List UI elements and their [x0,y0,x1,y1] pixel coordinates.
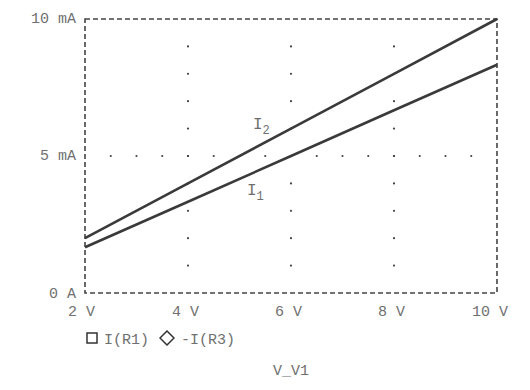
legend-label-i-r1: I(R1) [104,332,149,349]
curve-label-i2: I2 [253,117,270,137]
x-tick-6v: 6 V [275,305,302,320]
plot-area [0,0,530,390]
x-tick-10v: 10 V [472,305,508,320]
y-tick-5ma: 5 mA [0,149,76,164]
square-marker-icon [86,332,98,349]
x-axis-title: V_V1 [0,363,530,380]
legend: I(R1) -I(R3) [86,330,235,351]
x-tick-4v: 4 V [172,305,199,320]
y-tick-0a: 0 A [0,287,76,302]
diamond-marker-icon [159,330,175,351]
curve-i-r1 [85,19,497,238]
x-tick-2v: 2 V [68,305,95,320]
curve-label-i1: I1 [247,183,264,203]
x-tick-8v: 8 V [378,305,405,320]
curve-neg-i-r3 [85,65,497,247]
y-tick-10ma: 10 mA [0,12,76,27]
legend-label-neg-i-r3: -I(R3) [181,332,235,349]
curves [85,19,497,247]
